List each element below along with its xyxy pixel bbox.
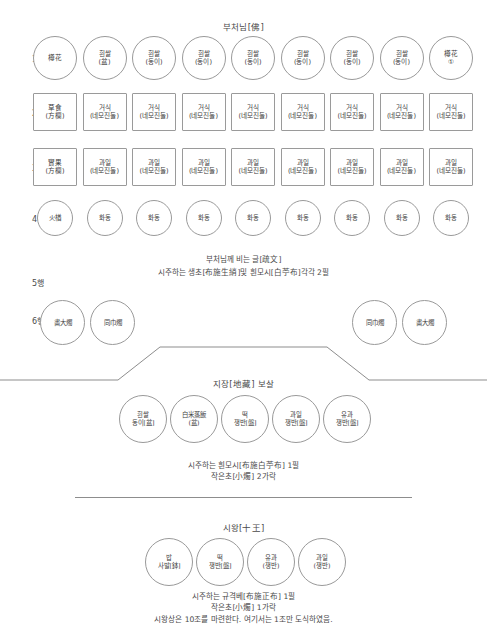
altar-cell-r4-c3: 화동 (136, 200, 172, 236)
siwang-note2: 작은초[小燭] 1가락 (0, 603, 487, 614)
cell-label-secondary: (동이) (244, 58, 261, 66)
cell-label-secondary: (네모진둘) (90, 112, 119, 120)
altar-cell-r2-c5: 거식(네모진둘) (231, 93, 275, 131)
cell-label-primary: 거식 (346, 104, 358, 112)
altar-cell-r4-c4: 화동 (186, 200, 222, 236)
altar-cell-r1-c6: 흰쌀(동이) (281, 36, 325, 80)
cell-label-primary: 과일 (316, 554, 328, 562)
cell-label-secondary: (동이) (195, 58, 212, 66)
cell-label-secondary: (쟁반) (314, 562, 331, 570)
altar-cell-r3-c7: 과일(네모진둘) (330, 148, 374, 186)
altar-cell-r4-c8: 화동 (384, 200, 420, 236)
cell-label-primary: 草食 (48, 104, 62, 112)
altar-cell-r4-c1: 火楢 (37, 200, 73, 236)
row6-right-circle-2: 畵大燭 (402, 300, 447, 345)
altar-cell-r4-c9: 화동 (433, 200, 469, 236)
cell-label-primary: 과일 (445, 159, 457, 167)
cell-label-primary: 유과 (341, 411, 353, 419)
siwang-title: 시왕[十王] (0, 521, 487, 533)
altar-cell-r3-c8: 과일(네모진둘) (380, 148, 424, 186)
altar-cell-r3-c3: 과일(네모진둘) (132, 148, 176, 186)
cell-label-secondary: (네모진둘) (436, 167, 465, 175)
jijang-circle-4: 과일쟁반[盤] (272, 395, 320, 443)
altar-cell-r3-c2: 과일(네모진둘) (83, 148, 127, 186)
cell-label-primary: 화동 (297, 214, 309, 222)
cell-label-secondary: (동이) (343, 58, 360, 66)
cell-label-secondary: (네모진둘) (387, 112, 416, 120)
altar-cell-r1-c9: 樽花① (429, 36, 473, 80)
altar-cell-r2-c7: 거식(네모진둘) (330, 93, 374, 131)
jijang-title: 지장[地藏] 보살 (0, 377, 487, 389)
altar-cell-r4-c2: 화동 (87, 200, 123, 236)
cell-label-primary: 흰쌀 (137, 411, 149, 419)
jijang-circle-3: 떡쟁반[盤] (221, 395, 269, 443)
altar-cell-r1-c7: 흰쌀(동이) (330, 36, 374, 80)
cell-label-secondary: 동이[盆] (132, 419, 155, 427)
cell-label-primary: 밥 (166, 554, 172, 562)
cell-label-primary: 거식 (198, 104, 210, 112)
cell-label-secondary: (네모진둘) (189, 112, 218, 120)
cell-label-primary: 畵大燭 (54, 319, 72, 327)
altar-cell-r1-c3: 흰쌀(동이) (132, 36, 176, 80)
row5-line1: 부처님께 비는 글[疏文] (0, 255, 487, 266)
altar-cell-r2-c3: 거식(네모진둘) (132, 93, 176, 131)
altar-cell-r1-c2: 흰쌀(盆) (83, 36, 127, 80)
cell-label-primary: 樽花 (444, 50, 458, 58)
cell-label-primary: 樽花 (48, 54, 62, 62)
cell-label-primary: 과일 (396, 159, 408, 167)
cell-label-secondary: (네모진둘) (238, 167, 267, 175)
altar-cell-r1-c1: 樽花 (33, 36, 77, 80)
cell-label-primary: 흰쌀 (346, 50, 358, 58)
cell-label-primary: 거식 (445, 104, 457, 112)
cell-label-primary: 흰쌀 (297, 50, 309, 58)
row6-left-circle-1: 畵大燭 (40, 300, 85, 345)
cell-label-primary: 同巾燭 (366, 319, 384, 327)
jijang-circle-5: 유과쟁반[盤] (323, 395, 371, 443)
section-divider (75, 497, 412, 498)
cell-label-secondary: (쟁반) (263, 562, 280, 570)
cell-label-secondary: (네모진둘) (436, 112, 465, 120)
cell-label-secondary: ① (448, 58, 454, 66)
page-title: 부처님[佛] (0, 20, 487, 32)
cell-label-secondary: (盆) (189, 419, 200, 427)
altar-cell-r3-c1: 實果(方欄) (33, 148, 77, 186)
altar-cell-r2-c6: 거식(네모진둘) (281, 93, 325, 131)
siwang-circle-2: 떡쟁반[盤] (196, 538, 244, 586)
cell-label-secondary: 쟁반[盤] (336, 419, 359, 427)
cell-label-primary: 과일 (247, 159, 259, 167)
cell-label-primary: 떡 (217, 554, 223, 562)
altar-cell-r4-c7: 화동 (334, 200, 370, 236)
cell-label-primary: 거식 (99, 104, 111, 112)
cell-label-primary: 白米蒸飯 (182, 411, 206, 419)
jijang-note1: 시주하는 흰모시[布施白苧布] 1필 (0, 461, 487, 472)
altar-cell-r1-c4: 흰쌀(동이) (182, 36, 226, 80)
cell-label-secondary: (方欄) (45, 167, 64, 175)
cell-label-primary: 흰쌀 (99, 50, 111, 58)
jijang-circle-1: 흰쌀동이[盆] (119, 395, 167, 443)
altar-cell-r2-c9: 거식(네모진둘) (429, 93, 473, 131)
siwang-note3: 시왕상은 10조를 마련한다. 여기서는 1조만 도식하였음. (0, 615, 487, 626)
cell-label-primary: 화동 (148, 214, 160, 222)
cell-label-secondary: (네모진둘) (238, 112, 267, 120)
cell-label-secondary: (네모진둘) (90, 167, 119, 175)
cell-label-secondary: (동이) (145, 58, 162, 66)
ritual-altar-diagram: 부처님[佛] 1행樽花흰쌀(盆)흰쌀(동이)흰쌀(동이)흰쌀(동이)흰쌀(동이)… (0, 0, 487, 639)
cell-label-primary: 화동 (346, 214, 358, 222)
cell-label-secondary: (네모진둘) (189, 167, 218, 175)
cell-label-primary: 과일 (290, 411, 302, 419)
cell-label-secondary: (네모진둘) (337, 167, 366, 175)
cell-label-secondary: (네모진둘) (337, 112, 366, 120)
siwang-circle-1: 밥사발[鉢] (145, 538, 193, 586)
cell-label-primary: 화동 (247, 214, 259, 222)
cell-label-primary: 과일 (148, 159, 160, 167)
altar-cell-r3-c6: 과일(네모진둘) (281, 148, 325, 186)
cell-label-primary: 흰쌀 (148, 50, 160, 58)
altar-cell-r4-c6: 화동 (285, 200, 321, 236)
altar-cell-r2-c8: 거식(네모진둘) (380, 93, 424, 131)
cell-label-primary: 흰쌀 (198, 50, 210, 58)
cell-label-primary: 화동 (99, 214, 111, 222)
cell-label-secondary: (네모진둘) (139, 112, 168, 120)
cell-label-secondary: (네모진둘) (387, 167, 416, 175)
altar-cell-r1-c8: 흰쌀(동이) (380, 36, 424, 80)
row6-left-circle-2: 同巾燭 (90, 300, 135, 345)
